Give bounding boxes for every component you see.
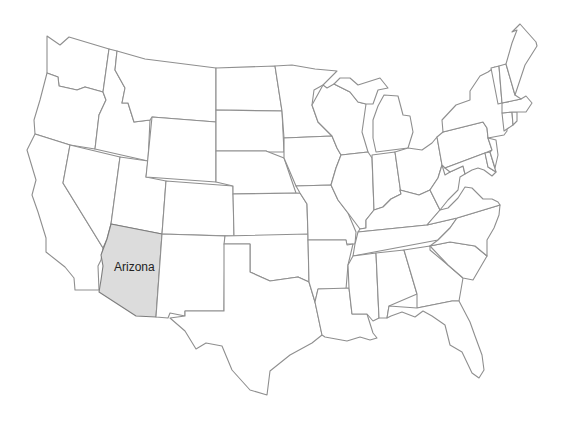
state-mississippi[interactable] bbox=[348, 253, 379, 321]
state-kansas[interactable] bbox=[233, 193, 308, 236]
us-map: Arizona bbox=[0, 0, 563, 428]
state-north-dakota[interactable] bbox=[216, 66, 282, 111]
state-montana[interactable] bbox=[115, 51, 216, 122]
state-wyoming[interactable] bbox=[146, 117, 216, 182]
state-south-dakota[interactable] bbox=[216, 110, 284, 152]
state-new-mexico[interactable] bbox=[156, 234, 225, 318]
state-colorado[interactable] bbox=[162, 181, 234, 236]
state-rhode-island[interactable] bbox=[512, 112, 517, 125]
arizona-label: Arizona bbox=[114, 260, 155, 274]
state-connecticut[interactable] bbox=[502, 112, 513, 131]
state-florida[interactable] bbox=[387, 301, 484, 378]
